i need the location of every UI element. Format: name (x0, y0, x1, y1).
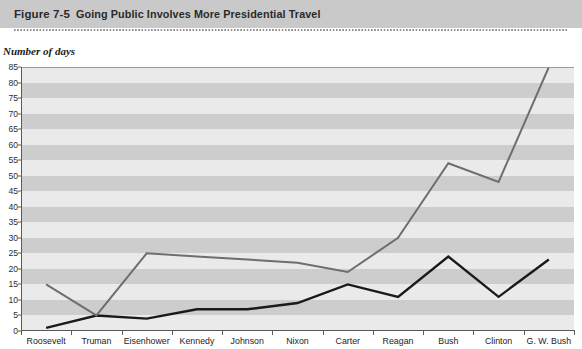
x-axis-tick-label: Carter (336, 337, 360, 346)
plot-top-border (21, 67, 574, 68)
y-axis-tick-label: 75 (0, 94, 18, 103)
x-axis-tick-label: Bush (438, 337, 458, 346)
y-axis-tick-mark (18, 299, 21, 300)
y-axis-tick-mark (18, 98, 21, 99)
y-axis-tick-mark (18, 82, 21, 83)
figure-title-label: Going Public Involves More Presidential … (76, 8, 321, 20)
y-axis-tick-mark (18, 237, 21, 238)
y-axis-tick-mark (18, 175, 21, 176)
plot-lines-svg (21, 67, 574, 331)
figure-number-label: Figure 7-5 (14, 8, 70, 20)
y-axis-tick-mark (18, 129, 21, 130)
y-axis-tick-label: 80 (0, 78, 18, 87)
x-axis-tick-label: G. W. Bush (527, 337, 572, 346)
y-axis-tick-label: 30 (0, 234, 18, 243)
x-axis-tick-mark (21, 330, 22, 335)
y-axis-tick-label: 70 (0, 109, 18, 118)
x-axis-tick-label: Kennedy (180, 337, 215, 346)
x-axis-tick-label: Clinton (485, 337, 512, 346)
x-axis-tick-mark (473, 330, 474, 335)
y-axis-tick-mark (18, 160, 21, 161)
y-axis-tick-label: 65 (0, 125, 18, 134)
x-axis-tick-mark (373, 330, 374, 335)
y-axis-tick-mark (18, 315, 21, 316)
y-axis-tick-labels: 0510152025303540455055606570758085 (0, 0, 18, 349)
x-axis-tick-label: Eisenhower (124, 337, 170, 346)
x-axis-tick-label: Johnson (231, 337, 264, 346)
x-axis-tick-label: Nixon (286, 337, 309, 346)
header-dotted-divider (14, 28, 568, 31)
x-axis-tick-mark (323, 330, 324, 335)
y-axis-tick-mark (18, 253, 21, 254)
x-axis-tick-label: Reagan (383, 337, 414, 346)
y-axis-tick-mark (18, 206, 21, 207)
x-axis-tick-mark (524, 330, 525, 335)
x-axis-tick-mark (574, 330, 575, 335)
y-axis-tick-label: 85 (0, 63, 18, 72)
y-axis-tick-label: 40 (0, 202, 18, 211)
y-axis-tick-mark (18, 268, 21, 269)
y-axis-tick-label: 10 (0, 296, 18, 305)
x-axis-tick-mark (71, 330, 72, 335)
x-axis-tick-mark (172, 330, 173, 335)
y-axis-tick-label: 60 (0, 140, 18, 149)
x-axis-tick-label: Truman (81, 337, 111, 346)
y-axis-tick-mark (18, 284, 21, 285)
series-line-domestic-travel (46, 256, 549, 327)
figure-header-band: Figure 7-5 Going Public Involves More Pr… (0, 0, 582, 28)
x-axis-tick-mark (423, 330, 424, 335)
y-axis-tick-mark (18, 144, 21, 145)
y-axis-tick-label: 5 (0, 311, 18, 320)
x-axis-tick-mark (222, 330, 223, 335)
y-axis-tick-label: 20 (0, 265, 18, 274)
y-axis-tick-label: 45 (0, 187, 18, 196)
x-axis-tick-label: Roosevelt (27, 337, 66, 346)
x-axis-tick-mark (122, 330, 123, 335)
y-axis-tick-label: 50 (0, 171, 18, 180)
x-axis-line (21, 330, 574, 331)
y-axis-tick-label: 55 (0, 156, 18, 165)
y-axis-tick-mark (18, 67, 21, 68)
y-axis-line (21, 67, 22, 331)
x-axis-tick-mark (272, 330, 273, 335)
figure-header-text: Figure 7-5 Going Public Involves More Pr… (0, 8, 321, 20)
y-axis-tick-mark (18, 113, 21, 114)
y-axis-tick-mark (18, 191, 21, 192)
chart-plot-area (21, 67, 574, 331)
y-axis-tick-mark (18, 222, 21, 223)
series-line-foreign-travel (46, 67, 549, 315)
y-axis-tick-label: 0 (0, 327, 18, 336)
y-axis-tick-label: 15 (0, 280, 18, 289)
y-axis-tick-label: 25 (0, 249, 18, 258)
y-axis-tick-label: 35 (0, 218, 18, 227)
